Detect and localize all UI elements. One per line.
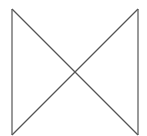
bowtie-diagram (0, 0, 147, 136)
